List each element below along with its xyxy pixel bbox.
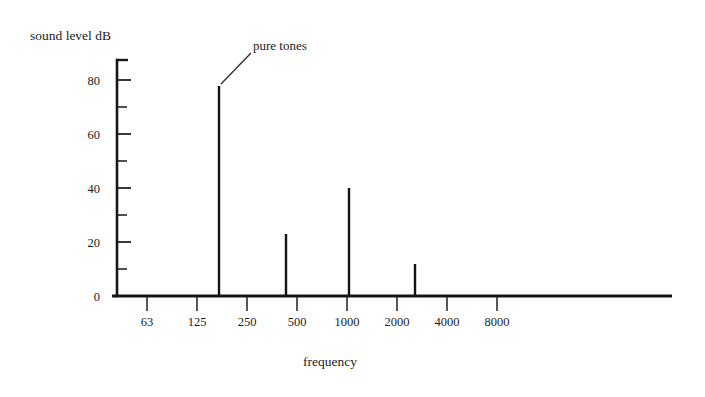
x-tick-label-500: 500 [288,315,307,329]
x-axis-title: frequency [303,354,357,369]
pure-tones-annotation: pure tones [253,38,307,53]
x-tick-label-4000: 4000 [435,315,460,329]
y-tick-label-0: 0 [94,290,100,304]
x-tick-label-63: 63 [141,315,154,329]
x-tick-label-1000: 1000 [335,315,360,329]
x-tick-label-125: 125 [188,315,207,329]
y-tick-label-40: 40 [88,182,101,196]
y-tick-label-80: 80 [88,74,101,88]
y-tick-label-60: 60 [88,128,101,142]
y-tick-label-20: 20 [88,236,101,250]
x-tick-label-250: 250 [238,315,257,329]
pure-tones-leader-line [221,53,251,84]
x-tick-label-2000: 2000 [385,315,410,329]
y-axis-title: sound level dB [30,28,111,43]
chart-canvas: sound level dB 80 60 40 20 0 [0,0,705,397]
chart-figure: sound level dB 80 60 40 20 0 [0,0,705,397]
x-tick-label-8000: 8000 [485,315,510,329]
x-axis-ticks [147,297,497,311]
